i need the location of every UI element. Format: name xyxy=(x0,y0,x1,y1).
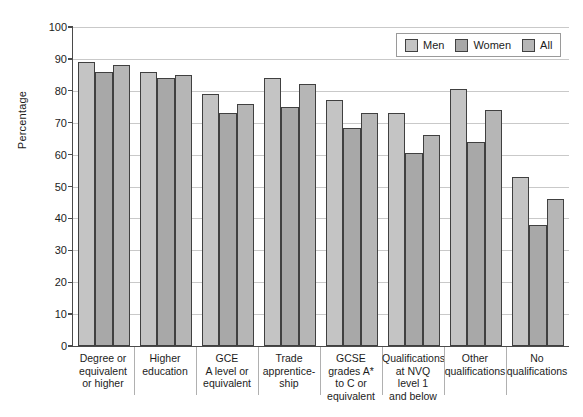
bar-women-5 xyxy=(343,128,360,347)
y-tick-mark xyxy=(68,282,73,283)
bar-men-7 xyxy=(450,89,467,346)
bar-women-3 xyxy=(219,113,236,346)
bar-all-2 xyxy=(175,75,192,346)
chart-legend: MenWomenAll xyxy=(396,33,561,57)
legend-label: All xyxy=(540,39,552,51)
x-axis-category-label: No qualifications xyxy=(506,352,568,377)
legend-item-men: Men xyxy=(405,39,444,52)
bar-women-2 xyxy=(157,78,174,346)
bar-men-1 xyxy=(78,62,95,346)
bar-all-7 xyxy=(485,110,502,346)
legend-label: Women xyxy=(473,39,511,51)
y-axis-title: Percentage xyxy=(16,60,28,180)
gridline xyxy=(73,59,569,60)
bar-men-6 xyxy=(388,113,405,346)
bar-women-7 xyxy=(467,142,484,346)
bar-women-8 xyxy=(529,225,546,346)
y-tick-label: 80 xyxy=(41,86,67,97)
plot-area xyxy=(72,27,569,347)
bar-women-6 xyxy=(405,153,422,346)
y-tick-label: 50 xyxy=(41,182,67,193)
legend-label: Men xyxy=(423,39,444,51)
y-tick-label: 40 xyxy=(41,213,67,224)
x-axis-category-label: Other qualifications xyxy=(444,352,506,377)
bar-men-4 xyxy=(264,78,281,346)
bar-all-1 xyxy=(113,65,130,346)
x-axis-category-label: Higher education xyxy=(134,352,196,377)
bar-chart: Percentage MenWomenAll 01020304050607080… xyxy=(0,0,583,417)
legend-swatch-icon xyxy=(455,39,468,52)
legend-swatch-icon xyxy=(405,39,418,52)
y-tick-label: 100 xyxy=(41,22,67,33)
bar-all-8 xyxy=(547,199,564,346)
y-tick-label: 0 xyxy=(41,341,67,352)
y-tick-mark xyxy=(68,26,73,27)
bar-women-4 xyxy=(281,107,298,346)
y-tick-mark xyxy=(68,345,73,346)
bar-men-2 xyxy=(140,72,157,346)
bar-all-4 xyxy=(299,84,316,346)
bar-men-3 xyxy=(202,94,219,346)
y-tick-mark xyxy=(68,218,73,219)
y-tick-mark xyxy=(68,90,73,91)
x-axis-category-label: Degree or equivalent or higher xyxy=(72,352,134,390)
y-tick-mark xyxy=(68,58,73,59)
bar-men-8 xyxy=(512,177,529,346)
x-axis-category-label: GCSE grades A* to C or equivalent xyxy=(320,352,382,402)
legend-item-women: Women xyxy=(455,39,511,52)
legend-swatch-icon xyxy=(522,39,535,52)
x-axis-category-label: Qualifications at NVQ level 1 and below xyxy=(382,352,444,402)
y-tick-label: 60 xyxy=(41,150,67,161)
y-tick-mark xyxy=(68,313,73,314)
x-axis-category-label: GCE A level or equivalent xyxy=(196,352,258,390)
y-tick-label: 70 xyxy=(41,118,67,129)
y-tick-mark xyxy=(68,154,73,155)
y-tick-label: 10 xyxy=(41,309,67,320)
bar-all-5 xyxy=(361,113,378,346)
y-tick-label: 90 xyxy=(41,54,67,65)
legend-item-all: All xyxy=(522,39,552,52)
y-tick-mark xyxy=(68,186,73,187)
bar-women-1 xyxy=(95,72,112,346)
bar-all-3 xyxy=(237,104,254,346)
y-tick-label: 30 xyxy=(41,245,67,256)
x-axis-category-label: Trade apprentice- ship xyxy=(258,352,320,390)
y-tick-mark xyxy=(68,250,73,251)
y-tick-mark xyxy=(68,122,73,123)
bar-all-6 xyxy=(423,135,440,346)
bar-men-5 xyxy=(326,100,343,346)
gridline xyxy=(73,27,569,28)
y-tick-label: 20 xyxy=(41,277,67,288)
